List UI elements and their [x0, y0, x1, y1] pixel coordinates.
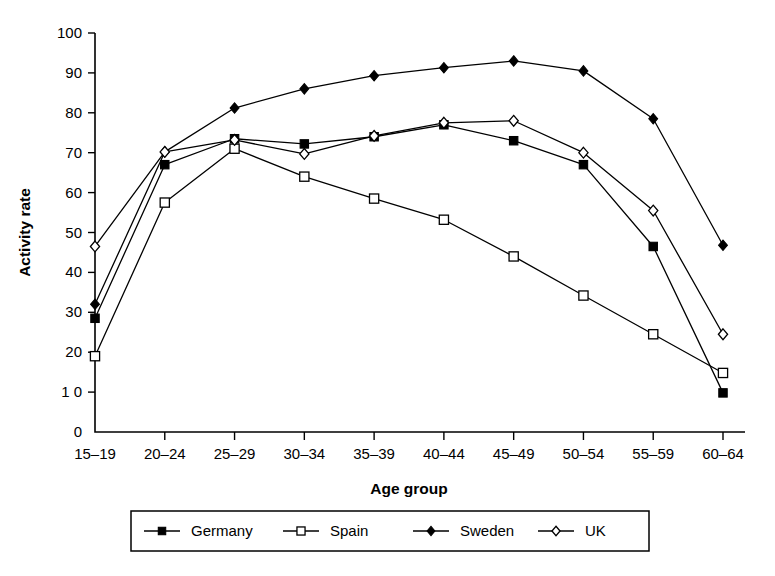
- marker-open-square: [649, 330, 658, 339]
- marker-filled-square: [161, 160, 169, 168]
- marker-filled-diamond: [649, 114, 658, 124]
- marker-filled-diamond: [509, 56, 518, 66]
- x-axis-title: Age group: [370, 480, 448, 497]
- marker-filled-square: [649, 242, 657, 250]
- legend-item-sweden[interactable]: Sweden: [413, 522, 514, 539]
- marker-open-diamond: [552, 526, 560, 536]
- series-spain: [90, 144, 727, 377]
- legend-item-spain[interactable]: Spain: [283, 522, 368, 539]
- marker-open-square: [90, 352, 99, 361]
- marker-filled-diamond: [91, 299, 100, 309]
- marker-filled-diamond: [439, 63, 448, 73]
- marker-filled-diamond: [719, 240, 728, 250]
- x-tick-label: 50–54: [563, 445, 605, 462]
- series-sweden: [91, 56, 728, 310]
- y-tick-label: 60: [65, 184, 82, 201]
- activity-rate-line-chart: 01 0203040506070809010015–1920–2425–2930…: [0, 0, 775, 576]
- legend-label: Spain: [330, 522, 368, 539]
- marker-filled-square: [300, 140, 308, 148]
- x-tick-label: 30–34: [283, 445, 325, 462]
- marker-open-square: [718, 368, 727, 377]
- y-tick-label: 100: [57, 24, 82, 41]
- legend-label: Sweden: [460, 522, 514, 539]
- y-tick-label: 50: [65, 224, 82, 241]
- series-germany: [91, 121, 727, 398]
- legend-item-uk[interactable]: UK: [538, 522, 606, 539]
- y-tick-label: 90: [65, 64, 82, 81]
- chart-canvas: 01 0203040506070809010015–1920–2425–2930…: [0, 0, 775, 576]
- x-tick-label: 35–39: [353, 445, 395, 462]
- series-path: [95, 61, 723, 304]
- series-path: [95, 121, 723, 334]
- marker-open-square: [579, 291, 588, 300]
- series-path: [95, 149, 723, 373]
- x-tick-label: 40–44: [423, 445, 465, 462]
- marker-open-square: [509, 252, 518, 261]
- marker-filled-square: [509, 137, 517, 145]
- y-tick-label: 80: [65, 104, 82, 121]
- marker-open-diamond: [579, 147, 588, 158]
- x-tick-label: 20–24: [144, 445, 186, 462]
- marker-filled-square: [719, 389, 727, 397]
- x-tick-label: 60–64: [702, 445, 744, 462]
- y-tick-label: 20: [65, 343, 82, 360]
- y-tick-label: 0: [74, 423, 82, 440]
- marker-filled-square: [579, 160, 587, 168]
- marker-open-diamond: [300, 148, 309, 159]
- marker-filled-square: [91, 314, 99, 322]
- y-axis-title: Activity rate: [16, 188, 33, 277]
- marker-open-diamond: [718, 329, 727, 340]
- marker-filled-diamond: [427, 526, 435, 535]
- chart-legend: GermanySpainSwedenUK: [131, 511, 649, 551]
- y-tick-label: 70: [65, 144, 82, 161]
- marker-open-square: [300, 172, 309, 181]
- legend-label: Germany: [191, 522, 253, 539]
- marker-open-diamond: [649, 205, 658, 216]
- x-tick-label: 25–29: [214, 445, 256, 462]
- x-tick-label: 45–49: [493, 445, 535, 462]
- marker-open-square: [439, 215, 448, 224]
- marker-filled-diamond: [579, 66, 588, 76]
- marker-open-square: [297, 527, 305, 535]
- marker-filled-diamond: [300, 84, 309, 94]
- marker-filled-square: [158, 527, 165, 534]
- marker-open-square: [160, 198, 169, 207]
- marker-filled-diamond: [370, 70, 379, 80]
- y-tick-label: 40: [65, 263, 82, 280]
- y-tick-label: 30: [65, 303, 82, 320]
- legend-label: UK: [585, 522, 606, 539]
- marker-open-square: [370, 194, 379, 203]
- marker-open-diamond: [509, 115, 518, 126]
- marker-filled-diamond: [230, 103, 239, 113]
- legend-item-germany[interactable]: Germany: [144, 522, 253, 539]
- x-tick-label: 15–19: [74, 445, 116, 462]
- series-path: [95, 125, 723, 393]
- series-uk: [90, 115, 727, 339]
- y-tick-label: 1 0: [61, 383, 82, 400]
- axis-lines: [95, 33, 745, 432]
- x-tick-label: 55–59: [632, 445, 674, 462]
